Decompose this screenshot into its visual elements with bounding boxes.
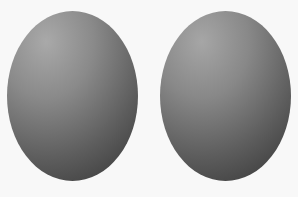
canvas xyxy=(0,0,298,197)
right-shaded-ellipse xyxy=(160,11,291,181)
left-shaded-ellipse xyxy=(7,11,138,181)
